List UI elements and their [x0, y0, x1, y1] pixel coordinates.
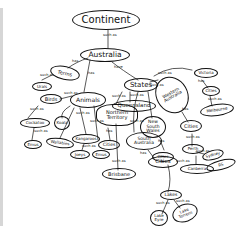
link-label: has [182, 108, 188, 112]
node-canberra: Canberra [180, 164, 214, 174]
node-label: Western Australia [159, 85, 184, 105]
node-label: Continent [82, 15, 131, 25]
node-label: Kangaroos [75, 137, 96, 141]
node-emus: Emus [24, 140, 42, 149]
link-label: has [72, 60, 78, 64]
node-emus-2: Emus [92, 150, 110, 159]
link-label: such as [130, 94, 144, 98]
link-label: such as [82, 145, 96, 149]
node-wa-cities: Cities [180, 120, 202, 132]
node-birds: Birds [40, 94, 62, 104]
node-label: Cities [157, 155, 168, 159]
link-label: has [106, 130, 112, 134]
node-label: Cities [205, 89, 216, 93]
link-label: such as [176, 160, 190, 164]
link-label: such as [40, 74, 54, 78]
link-label: has [88, 72, 94, 76]
link-label: has [140, 152, 146, 156]
node-label: RS [218, 162, 224, 167]
link-label: such as [186, 136, 200, 140]
node-label: Cities [184, 124, 198, 129]
node-label: Urals [37, 85, 47, 89]
node-cockatoo: Cockatoo [20, 118, 50, 128]
link-label: such as [156, 202, 170, 206]
node-label: Emus [95, 153, 106, 157]
node-brisbane: Brisbane [102, 168, 136, 180]
node-label: Lake Eyre [152, 214, 166, 222]
link-label: such as [30, 108, 44, 112]
node-victoria: Victoria [194, 68, 218, 78]
node-label: Koala [57, 121, 68, 125]
node-label: Canberra [188, 167, 206, 171]
node-vic-cities: Cities [202, 86, 220, 96]
node-label: Terms [57, 69, 72, 77]
node-south-australia: South Australia [126, 132, 162, 150]
node-cities-small: Cities [152, 152, 174, 162]
link-label: such as [208, 98, 222, 102]
node-joeys: Joeys [70, 150, 90, 159]
node-label: Melbourne [206, 107, 227, 114]
link-label: such as [158, 72, 172, 76]
concept-map-canvas: Continent such as Australia has has have… [0, 0, 246, 235]
node-label: Joeys [75, 153, 86, 157]
node-label: Animals [76, 97, 100, 103]
node-label: Cities [103, 143, 116, 148]
node-label: Emus [27, 143, 38, 147]
node-label: Brisbane [108, 172, 130, 177]
link-label: such as [34, 130, 48, 134]
node-label: South Australia [130, 137, 158, 146]
node-label: Victoria [198, 71, 213, 75]
node-kangaroos: Kangaroos [72, 134, 100, 144]
node-label: Lakes [165, 193, 178, 198]
node-continent: Continent [72, 10, 140, 30]
node-label: Cockatoo [26, 121, 45, 125]
node-urals: Urals [32, 82, 52, 91]
node-nt-cities: Cities [98, 140, 120, 150]
link-label: have [114, 66, 123, 70]
node-australia: Australia [80, 48, 130, 62]
node-label: Northern Territory [100, 110, 134, 120]
link-label: has [198, 80, 204, 84]
link-label: such as [76, 112, 90, 116]
node-label: Sydney [205, 151, 220, 159]
node-label: Lake Torrens [174, 206, 196, 220]
node-label: Wallabies [50, 140, 69, 147]
node-label: States [130, 82, 152, 89]
node-label: Australia [88, 51, 121, 59]
node-label: Birds [45, 97, 58, 102]
node-koala: Koala [54, 116, 70, 130]
node-lake-eyre: Lake Eyre [150, 210, 168, 226]
link-label: such as [112, 95, 126, 99]
link-label: such as [112, 160, 126, 164]
link-label: such as [130, 120, 144, 124]
link-label: such as [103, 34, 117, 38]
